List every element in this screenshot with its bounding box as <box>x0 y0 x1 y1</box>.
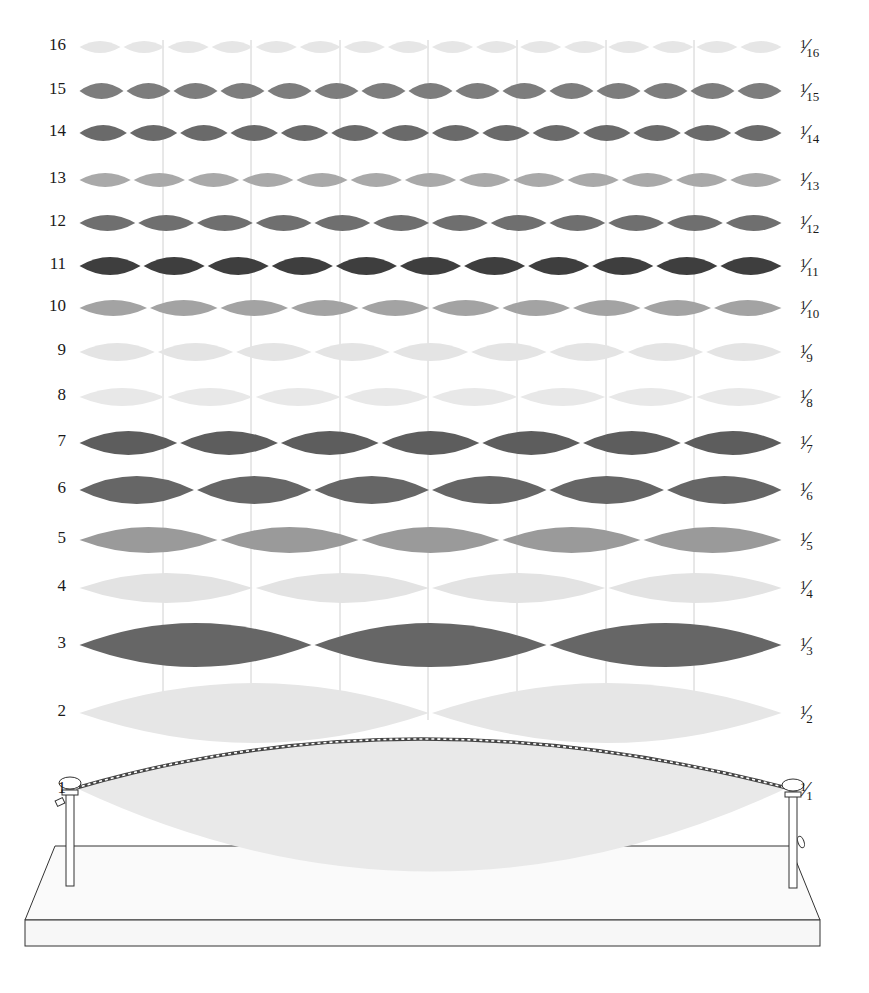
wave-lobe <box>373 215 429 231</box>
harmonic-number-label: 7 <box>32 431 66 451</box>
wave-lobe <box>622 173 673 187</box>
wave-lobe <box>644 83 688 99</box>
harmonic-number-label: 6 <box>32 478 66 498</box>
fraction-denominator: 6 <box>806 488 813 503</box>
harmonic-row-7 <box>80 431 782 455</box>
fraction-denominator: 16 <box>806 45 819 60</box>
wave-lobe <box>344 41 385 53</box>
harmonic-row-15 <box>80 83 782 99</box>
wave-lobe <box>432 388 517 406</box>
wave-lobe <box>272 257 333 275</box>
fraction-denominator: 11 <box>806 264 819 279</box>
wavelength-fraction-label: 1⁄7 <box>800 429 813 455</box>
wave-lobe <box>432 476 547 504</box>
wave-lobe <box>80 683 430 743</box>
wavelength-fraction-label: 1⁄10 <box>800 294 819 320</box>
wavelength-fraction-label: 1⁄12 <box>800 209 819 235</box>
wave-lobe <box>300 41 341 53</box>
wave-lobe <box>676 173 727 187</box>
wave-lobe <box>550 343 625 361</box>
harmonic-number-label: 13 <box>32 168 66 188</box>
wave-lobe <box>550 623 782 667</box>
wave-lobe <box>644 527 782 553</box>
wave-lobe <box>696 388 781 406</box>
wave-lobe <box>456 83 500 99</box>
wave-lobe <box>628 343 703 361</box>
wave-lobe <box>315 476 430 504</box>
fraction-denominator: 10 <box>806 306 819 321</box>
wave-lobe <box>597 83 641 99</box>
wave-lobe <box>608 41 649 53</box>
wave-lobe <box>331 125 378 141</box>
harmonic-number-label: 15 <box>32 79 66 99</box>
fraction-denominator: 12 <box>806 221 819 236</box>
wave-lobe <box>188 173 239 187</box>
harmonic-number-label: 14 <box>32 121 66 141</box>
wave-lobe <box>291 300 359 316</box>
wave-lobe <box>351 173 402 187</box>
wave-lobe <box>80 257 141 275</box>
wave-lobe <box>432 215 488 231</box>
harmonic-row-2 <box>80 683 782 743</box>
wave-lobe <box>482 431 580 455</box>
wave-lobe <box>315 215 371 231</box>
board-front <box>25 920 820 946</box>
wave-lobe <box>80 573 253 603</box>
wave-lobe <box>503 300 571 316</box>
wavelength-fraction-label: 1⁄13 <box>800 166 819 192</box>
wave-lobe <box>256 41 297 53</box>
wave-lobe <box>197 476 312 504</box>
harmonic-number-label: 3 <box>32 633 66 653</box>
wave-lobe <box>80 41 121 53</box>
standing-wave-rows <box>80 41 782 743</box>
wave-lobe <box>520 388 605 406</box>
wave-lobe <box>80 215 136 231</box>
wave-lobe <box>168 388 253 406</box>
wave-lobe <box>432 125 479 141</box>
wavelength-fraction-label: 1⁄16 <box>800 33 819 59</box>
wave-lobe <box>80 343 155 361</box>
harmonic-number-label: 11 <box>32 254 66 274</box>
wave-lobe <box>476 41 517 53</box>
wave-lobe <box>281 125 328 141</box>
wave-lobe <box>150 300 218 316</box>
harmonic-row-3 <box>80 623 782 667</box>
wavelength-fraction-label: 1⁄11 <box>800 252 819 278</box>
wave-lobe <box>344 388 429 406</box>
wave-lobe <box>268 83 312 99</box>
wave-lobe <box>80 83 124 99</box>
harmonic-number-label: 1 <box>32 778 66 798</box>
wave-lobe <box>503 527 641 553</box>
wave-lobe <box>315 83 359 99</box>
wave-lobe <box>362 83 406 99</box>
wave-lobe <box>482 125 529 141</box>
harmonic-number-label: 12 <box>32 211 66 231</box>
wave-lobe <box>503 83 547 99</box>
wave-lobe <box>393 343 468 361</box>
wave-lobe <box>592 257 653 275</box>
wave-lobe <box>388 41 429 53</box>
wavelength-fraction-label: 1⁄15 <box>800 77 819 103</box>
wavelength-fraction-label: 1⁄1 <box>800 776 813 802</box>
wave-lobe <box>513 173 564 187</box>
wave-lobe <box>608 573 781 603</box>
fraction-denominator: 2 <box>806 711 813 726</box>
harmonic-number-label: 2 <box>32 701 66 721</box>
harmonic-number-label: 8 <box>32 385 66 405</box>
harmonic-row-13 <box>80 173 782 187</box>
wave-lobe <box>80 476 195 504</box>
harmonic-row-16 <box>80 41 782 53</box>
wave-lobe <box>208 257 269 275</box>
harmonic-row-10 <box>80 300 782 316</box>
wave-lobe <box>212 41 253 53</box>
wave-lobe <box>127 83 171 99</box>
fraction-denominator: 7 <box>806 441 813 456</box>
wave-lobe <box>80 527 218 553</box>
wave-lobe <box>80 388 165 406</box>
wave-lobe <box>130 125 177 141</box>
wave-lobe <box>382 125 429 141</box>
wave-lobe <box>80 623 312 667</box>
wave-lobe <box>726 215 782 231</box>
wave-lobe <box>684 125 731 141</box>
string-apparatus <box>25 739 820 946</box>
